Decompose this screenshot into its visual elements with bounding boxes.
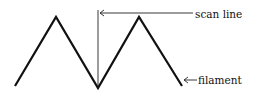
filament-zigzag (15, 17, 182, 88)
scan-line-arrow (100, 10, 193, 16)
filament-label: filament (198, 75, 242, 86)
filament-arrow (184, 77, 197, 83)
scan-line-label: scan line (195, 9, 242, 20)
